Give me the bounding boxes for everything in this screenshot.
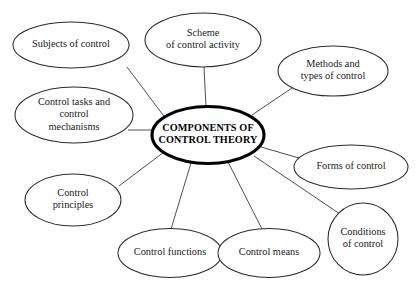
node-control-tasks-and-control-mechanisms-label-line-3: mechanisms xyxy=(49,121,100,132)
node-control-tasks-and-control-mechanisms-label-line-1: Control tasks and xyxy=(38,96,111,107)
node-control-means-label-line-1: Control means xyxy=(239,246,299,257)
center-node-label-line-1: COMPONENTS OF xyxy=(162,122,254,133)
connector-center-to-control-functions xyxy=(171,163,191,229)
node-scheme-of-control-activity-label-line-2: of control activity xyxy=(166,39,241,50)
node-control-principles-label-line-2: principles xyxy=(53,199,94,210)
center-node-label-line-2: CONTROL THEORY xyxy=(158,134,258,145)
node-conditions-of-control[interactable]: Conditionsof control xyxy=(328,203,398,275)
node-subjects-of-control[interactable]: Subjects of control xyxy=(13,22,129,68)
connector-center-to-control-means xyxy=(228,162,262,229)
node-methods-and-types-of-control-label-line-1: Methods and xyxy=(306,58,360,69)
node-forms-of-control[interactable]: Forms of control xyxy=(294,145,408,189)
node-forms-of-control-label-line-1: Forms of control xyxy=(316,160,385,171)
node-scheme-of-control-activity-label-line-1: Scheme xyxy=(187,27,220,38)
node-center-components-of-control-theory[interactable]: COMPONENTS OFCONTROL THEORY xyxy=(152,107,264,164)
node-methods-and-types-of-control[interactable]: Methods andtypes of control xyxy=(278,46,388,96)
node-control-principles[interactable]: Controlprinciples xyxy=(25,174,121,226)
node-control-means[interactable]: Control means xyxy=(218,229,320,278)
mind-map-canvas: Subjects of controlSchemeof control acti… xyxy=(0,0,419,291)
connector-center-to-scheme-of-control-activity xyxy=(204,67,206,107)
node-scheme-of-control-activity[interactable]: Schemeof control activity xyxy=(145,13,261,67)
center-node-layer: COMPONENTS OFCONTROL THEORY xyxy=(152,107,264,164)
node-conditions-of-control-label-line-1: Conditions xyxy=(340,226,385,237)
mind-map-diagram: Subjects of controlSchemeof control acti… xyxy=(0,0,419,291)
connector-center-to-methods-and-types-of-control xyxy=(252,88,292,115)
node-control-functions-label-line-1: Control functions xyxy=(134,246,206,257)
node-subjects-of-control-label-line-1: Subjects of control xyxy=(32,38,110,49)
node-methods-and-types-of-control-label-line-2: types of control xyxy=(301,70,366,81)
connector-center-to-forms-of-control xyxy=(261,147,299,158)
node-control-tasks-and-control-mechanisms[interactable]: Control tasks andcontrolmechanisms xyxy=(15,87,133,143)
connector-center-to-control-principles xyxy=(119,152,164,186)
node-conditions-of-control-label-line-2: of control xyxy=(343,238,383,249)
node-control-functions[interactable]: Control functions xyxy=(118,229,222,278)
node-control-tasks-and-control-mechanisms-label-line-2: control xyxy=(59,108,88,119)
node-control-principles-label-line-1: Control xyxy=(57,187,89,198)
